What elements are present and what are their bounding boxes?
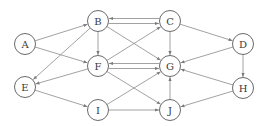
edge-layer (33, 19, 243, 111)
node-a: A (15, 34, 36, 55)
node-i: I (88, 100, 109, 121)
node-d: D (233, 34, 254, 55)
node-j: J (160, 100, 181, 121)
node-label: H (239, 83, 248, 94)
edge-a-to-b (35, 24, 88, 41)
node-h: H (233, 78, 254, 99)
edge-h-to-j (181, 91, 233, 107)
node-c: C (160, 11, 181, 32)
node-f: F (88, 56, 109, 77)
node-label: J (167, 105, 172, 116)
edge-h-to-g (181, 69, 233, 85)
node-label: F (95, 61, 102, 72)
edge-f-to-e (36, 69, 88, 84)
graph-canvas: ABCDEFGHIJ (0, 0, 267, 126)
node-layer: ABCDEFGHIJ (15, 11, 254, 121)
edge-d-to-g (181, 47, 233, 63)
node-e: E (15, 77, 36, 98)
edge-e-to-i (35, 90, 88, 107)
node-g: G (160, 56, 181, 77)
node-label: E (21, 82, 28, 93)
edge-c-to-d (180, 24, 233, 41)
node-label: G (166, 61, 174, 72)
node-label: C (166, 16, 174, 27)
node-label: B (94, 16, 101, 27)
edge-b-to-e (33, 28, 90, 80)
node-label: I (96, 105, 100, 116)
node-b: B (88, 11, 109, 32)
edge-a-to-f (35, 47, 87, 63)
node-label: A (20, 39, 29, 50)
node-label: D (239, 39, 247, 50)
